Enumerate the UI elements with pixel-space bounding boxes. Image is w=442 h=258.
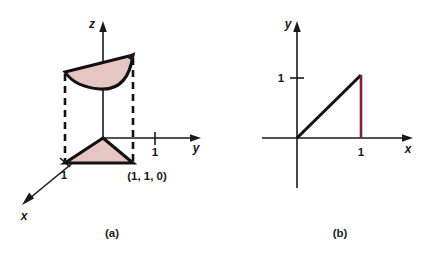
z-axis-label: z <box>88 17 95 31</box>
figure-canvas: z y x 1 1 (1, 1, 0) (a) y x 1 1 <box>0 0 442 258</box>
figure-container: z y x 1 1 (1, 1, 0) (a) y x 1 1 <box>0 0 442 258</box>
panel-b-group: y x 1 1 (b) <box>262 17 413 239</box>
panel-b-y-axis-label: y <box>284 17 293 31</box>
panel-b-hypotenuse <box>297 75 361 138</box>
x-axis-tick-label-1: 1 <box>61 169 68 181</box>
panel-b-x-axis-arrowhead <box>402 134 413 142</box>
x-axis-label: x <box>20 209 29 223</box>
panel-b-x-axis-label: x <box>404 142 413 156</box>
top-surface-fill <box>65 55 133 89</box>
point-label-1-1-0: (1, 1, 0) <box>127 170 167 182</box>
x-axis-arrowhead <box>22 193 34 205</box>
panel-a-group: z y x 1 1 (1, 1, 0) (a) <box>20 17 201 239</box>
panel-b-y-tick-label-1: 1 <box>278 72 285 84</box>
y-axis-tick-label-1: 1 <box>152 146 159 158</box>
y-axis-label: y <box>192 141 201 155</box>
panel-b-x-tick-label-1: 1 <box>358 146 365 158</box>
panel-b-caption: (b) <box>333 227 348 239</box>
panel-b-y-axis-arrowhead <box>293 21 301 32</box>
panel-a-caption: (a) <box>105 227 119 239</box>
z-axis-arrowhead <box>99 21 107 32</box>
